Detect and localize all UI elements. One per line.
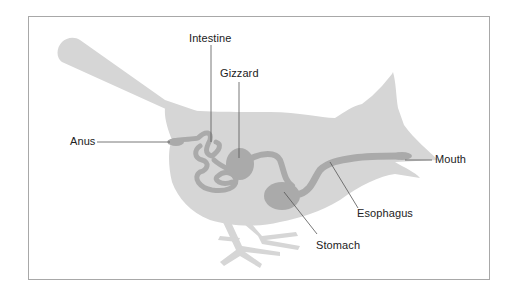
label-intestine: Intestine [189,32,231,44]
gizzard-shape [226,148,254,180]
label-mouth: Mouth [435,153,466,165]
label-esophagus: Esophagus [357,207,413,219]
label-anus: Anus [70,135,95,147]
crop-shape [392,152,412,160]
label-gizzard: Gizzard [220,67,259,79]
label-stomach: Stomach [316,239,360,251]
cloaca-shape [168,138,184,146]
